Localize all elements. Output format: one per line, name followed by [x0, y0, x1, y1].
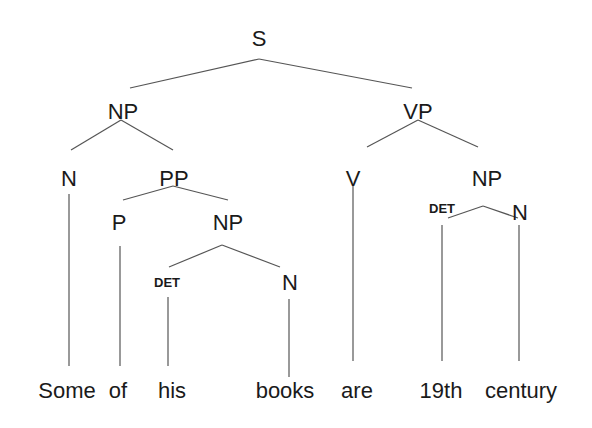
edge-vp-v	[367, 120, 418, 147]
word-some: Some	[38, 378, 95, 403]
edge-np-pp	[121, 120, 173, 150]
word-of: of	[109, 378, 128, 403]
node-np-inner: NP	[213, 210, 244, 235]
node-np-object: NP	[472, 166, 503, 191]
node-v: V	[346, 166, 361, 191]
word-19th: 19th	[420, 378, 463, 403]
node-n-inner: N	[282, 270, 298, 295]
syntax-tree-diagram: S NP VP N PP V NP P NP DET N DET N Some …	[0, 0, 592, 428]
word-are: are	[341, 378, 373, 403]
word-century: century	[485, 378, 557, 403]
edge-npinner-n	[222, 245, 280, 267]
node-n-some: N	[61, 166, 77, 191]
node-pp: PP	[159, 166, 188, 191]
word-books: books	[256, 378, 315, 403]
node-det-object: DET	[429, 201, 455, 216]
node-s: S	[252, 26, 267, 51]
node-p: P	[112, 210, 127, 235]
edge-np-n	[71, 120, 121, 150]
sentence-words: Some of his books are 19th century	[38, 378, 557, 403]
edge-s-np	[130, 59, 259, 88]
edge-s-vp	[259, 59, 412, 88]
edge-npinner-det	[169, 245, 222, 267]
tree-nodes: S NP VP N PP V NP P NP DET N DET N	[61, 26, 528, 295]
edge-vp-np	[418, 120, 478, 147]
tree-svg: S NP VP N PP V NP P NP DET N DET N Some …	[0, 0, 592, 428]
node-np-subject: NP	[108, 99, 139, 124]
node-det-inner: DET	[154, 275, 180, 290]
node-n-object: N	[512, 200, 528, 225]
word-his: his	[158, 378, 186, 403]
node-vp: VP	[403, 99, 432, 124]
